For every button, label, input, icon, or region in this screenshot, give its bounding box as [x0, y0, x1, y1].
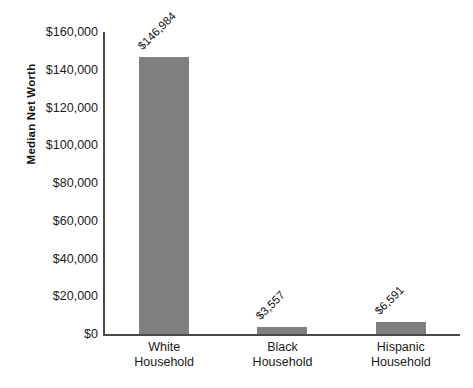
x-axis-category-label-line: Household	[105, 355, 223, 370]
bar-slot: $146,984	[105, 32, 223, 334]
y-axis-tick-labels: $0$20,000$40,000$60,000$80,000$100,000$1…	[0, 0, 98, 388]
x-axis-category-label: BlackHousehold	[223, 340, 341, 370]
y-axis-tick-label: $100,000	[0, 138, 98, 152]
y-axis-tick-label: $160,000	[0, 25, 98, 39]
bar[interactable]	[257, 327, 307, 334]
x-axis-category-label-line: Black	[223, 340, 341, 355]
x-axis-category-labels: WhiteHouseholdBlackHouseholdHispanicHous…	[105, 340, 460, 386]
x-axis-category-label: HispanicHousehold	[342, 340, 460, 370]
x-axis-category-label-line: Hispanic	[342, 340, 460, 355]
bar-slot: $6,591	[342, 32, 460, 334]
bar[interactable]	[139, 57, 189, 334]
y-axis-tick-label: $120,000	[0, 101, 98, 115]
y-axis-tick-label: $140,000	[0, 63, 98, 77]
y-axis-tick-label: $80,000	[0, 176, 98, 190]
x-axis-category-label-line: Household	[342, 355, 460, 370]
bar-value-label: $6,591	[372, 283, 405, 316]
bar-value-label: $146,984	[136, 9, 178, 51]
bar[interactable]	[376, 322, 426, 334]
bar-value-label: $3,557	[254, 289, 287, 322]
bar-series: $146,984$3,557$6,591	[105, 32, 460, 334]
x-axis-category-label-line: Household	[223, 355, 341, 370]
y-axis-tick-label: $60,000	[0, 214, 98, 228]
bar-slot: $3,557	[223, 32, 341, 334]
y-axis-tick-label: $0	[0, 327, 98, 341]
x-axis-category-label-line: White	[105, 340, 223, 355]
y-axis-tick-label: $40,000	[0, 252, 98, 266]
bar-chart: Median Net Worth $0$20,000$40,000$60,000…	[0, 0, 473, 388]
y-axis-tick-label: $20,000	[0, 289, 98, 303]
x-axis-category-label: WhiteHousehold	[105, 340, 223, 370]
x-axis-line	[103, 334, 460, 336]
